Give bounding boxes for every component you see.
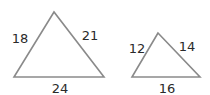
large-right-side-label: 21 (82, 28, 99, 43)
large-triangle-group: 18 21 24 (12, 12, 104, 95)
large-bottom-side-label: 24 (52, 81, 69, 95)
small-bottom-side-label: 16 (159, 81, 176, 95)
small-triangle-group: 12 14 16 (129, 33, 200, 95)
small-right-side-label: 14 (179, 39, 196, 54)
similar-triangles-diagram: 18 21 24 12 14 16 (0, 0, 210, 95)
large-left-side-label: 18 (12, 31, 29, 46)
small-left-side-label: 12 (129, 41, 146, 56)
